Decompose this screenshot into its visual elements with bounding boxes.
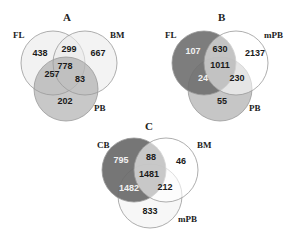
region-cb-mpb: 1482 [119, 183, 139, 193]
venn-diagram-c: C CB BM mPB 795 88 46 1481 1482 212 833 [97, 120, 212, 228]
region-bm-mpb: 212 [157, 182, 172, 192]
region-mpb-only: 2137 [245, 48, 265, 58]
set-label-pb: PB [94, 103, 106, 113]
diagram-title: B [218, 11, 226, 23]
region-fl-mpb-pb: 1011 [210, 60, 230, 70]
set-label-mpb: mPB [178, 214, 197, 224]
region-mpb-only: 833 [142, 206, 157, 216]
region-pb-only: 55 [217, 96, 227, 106]
set-label-bm: BM [110, 30, 125, 40]
region-mpb-pb: 230 [229, 73, 244, 83]
diagram-title: C [145, 120, 153, 132]
region-cb-bm: 88 [146, 152, 156, 162]
set-label-fl: FL [13, 30, 25, 40]
region-fl-only: 438 [32, 48, 47, 58]
region-fl-pb: 24 [198, 73, 208, 83]
region-cb-bm-mpb: 1481 [139, 169, 159, 179]
region-fl-bm: 299 [61, 44, 76, 54]
set-label-fl: FL [165, 30, 177, 40]
set-label-pb: PB [249, 103, 261, 113]
set-label-bm: BM [197, 140, 212, 150]
region-bm-only: 46 [176, 156, 186, 166]
set-label-cb: CB [97, 140, 110, 150]
region-fl-only: 107 [185, 46, 200, 56]
venn-diagram-b: B FL mPB PB 107 630 2137 1011 24 230 55 [165, 11, 283, 121]
venn-diagram-a: A FL BM PB 438 299 667 778 257 83 202 [13, 11, 125, 121]
set-label-mpb: mPB [264, 30, 283, 40]
region-fl-bm-pb: 778 [57, 61, 72, 71]
region-bm-only: 667 [90, 48, 105, 58]
region-bm-pb: 83 [75, 74, 85, 84]
venn-figure: A FL BM PB 438 299 667 778 257 83 202 B … [0, 0, 296, 236]
region-fl-pb: 257 [44, 69, 59, 79]
region-cb-only: 795 [113, 155, 128, 165]
region-fl-mpb: 630 [212, 44, 227, 54]
region-pb-only: 202 [57, 96, 72, 106]
diagram-title: A [63, 11, 71, 23]
